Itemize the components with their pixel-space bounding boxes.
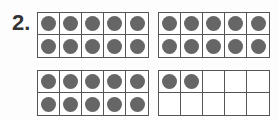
- ten-frame-cell: [38, 71, 60, 93]
- problem-number: 2.: [12, 10, 30, 36]
- ten-frame-cell: [203, 71, 225, 93]
- ten-frame-cell: [60, 93, 82, 115]
- counter-dot-icon: [251, 16, 266, 31]
- counter-dot-icon: [85, 16, 100, 31]
- counter-dot-icon: [162, 74, 177, 89]
- counter-dot-icon: [41, 97, 56, 112]
- counter-dot-icon: [63, 16, 78, 31]
- ten-frame-cell: [126, 71, 148, 93]
- ten-frame-cell: [225, 93, 247, 115]
- ten-frame-cell: [159, 71, 181, 93]
- counter-dot-icon: [184, 16, 199, 31]
- counter-dot-icon: [41, 74, 56, 89]
- counter-dot-icon: [130, 16, 145, 31]
- counter-dot-icon: [228, 39, 243, 54]
- counter-dot-icon: [206, 39, 221, 54]
- ten-frame-cell: [126, 13, 148, 35]
- ten-frame-4: [158, 70, 270, 116]
- counter-dot-icon: [251, 39, 266, 54]
- counter-dot-icon: [130, 39, 145, 54]
- ten-frame-cell: [247, 93, 269, 115]
- ten-frame-cell: [181, 71, 203, 93]
- ten-frame-cell: [104, 35, 126, 57]
- ten-frame-cell: [38, 35, 60, 57]
- ten-frame-1: [37, 12, 149, 58]
- ten-frame-cell: [60, 71, 82, 93]
- ten-frame-cell: [203, 13, 225, 35]
- ten-frame-cell: [159, 13, 181, 35]
- counter-dot-icon: [107, 16, 122, 31]
- ten-frame-cell: [104, 71, 126, 93]
- counter-dot-icon: [85, 74, 100, 89]
- counter-dot-icon: [162, 16, 177, 31]
- ten-frame-cell: [181, 35, 203, 57]
- counter-dot-icon: [107, 97, 122, 112]
- counter-dot-icon: [85, 39, 100, 54]
- counter-dot-icon: [107, 39, 122, 54]
- ten-frame-cell: [82, 93, 104, 115]
- ten-frame-cell: [104, 13, 126, 35]
- ten-frame-cell: [82, 13, 104, 35]
- ten-frame-cell: [247, 35, 269, 57]
- ten-frame-cell: [181, 93, 203, 115]
- counter-dot-icon: [206, 16, 221, 31]
- counter-dot-icon: [184, 74, 199, 89]
- ten-frame-cell: [126, 93, 148, 115]
- ten-frame-cell: [104, 93, 126, 115]
- counter-dot-icon: [41, 16, 56, 31]
- ten-frame-cell: [60, 13, 82, 35]
- ten-frame-cell: [60, 35, 82, 57]
- counter-dot-icon: [107, 74, 122, 89]
- counter-dot-icon: [85, 97, 100, 112]
- counter-dot-icon: [130, 74, 145, 89]
- ten-frame-cell: [247, 71, 269, 93]
- ten-frame-cell: [82, 71, 104, 93]
- ten-frame-cell: [225, 13, 247, 35]
- ten-frame-cell: [225, 71, 247, 93]
- ten-frame-cell: [82, 35, 104, 57]
- counter-dot-icon: [130, 97, 145, 112]
- ten-frame-cell: [203, 93, 225, 115]
- counter-dot-icon: [63, 74, 78, 89]
- counter-dot-icon: [162, 39, 177, 54]
- counter-dot-icon: [228, 16, 243, 31]
- counter-dot-icon: [41, 39, 56, 54]
- ten-frame-cell: [38, 93, 60, 115]
- counter-dot-icon: [63, 97, 78, 112]
- ten-frame-3: [37, 70, 149, 116]
- ten-frame-cell: [247, 13, 269, 35]
- ten-frame-2: [158, 12, 270, 58]
- ten-frame-cell: [159, 93, 181, 115]
- ten-frame-cell: [203, 35, 225, 57]
- ten-frame-cell: [38, 13, 60, 35]
- counter-dot-icon: [184, 39, 199, 54]
- ten-frame-cell: [159, 35, 181, 57]
- ten-frame-cell: [126, 35, 148, 57]
- ten-frame-cell: [181, 13, 203, 35]
- counter-dot-icon: [63, 39, 78, 54]
- ten-frame-cell: [225, 35, 247, 57]
